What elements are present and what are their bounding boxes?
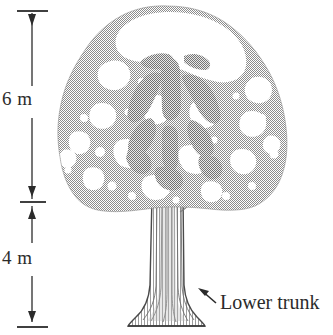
tree-height-diagram: 6 m 4 m Lower trunk	[0, 0, 333, 335]
dimension-label-upper: 6 m	[2, 88, 33, 110]
dimension-line	[17, 11, 48, 327]
arrowhead-down-top	[28, 14, 36, 26]
tree-illustration	[0, 0, 333, 335]
arrowhead-up-bottom	[28, 311, 36, 322]
dimension-label-lower: 4 m	[2, 247, 33, 269]
callout-label-lower-trunk: Lower trunk	[220, 291, 319, 314]
tree-canopy	[50, 0, 300, 220]
callout-leader	[198, 288, 216, 303]
arrowhead-up-middle	[28, 186, 36, 197]
